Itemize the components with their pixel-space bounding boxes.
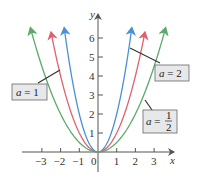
- y-tick-label: 5: [89, 51, 95, 63]
- svg-text:a = 1: a = 1: [16, 86, 39, 98]
- x-tick-label: −3: [35, 155, 47, 167]
- svg-text:a = 2: a = 2: [159, 67, 182, 79]
- x-axis-label: x: [169, 154, 175, 166]
- leader-ahalf: [145, 100, 152, 110]
- svg-text:2: 2: [166, 121, 172, 133]
- leader-a2: [130, 48, 160, 63]
- y-tick-label: 4: [89, 70, 95, 82]
- y-tick-label: 2: [89, 108, 95, 120]
- x-tick-label: −1: [72, 155, 84, 167]
- label-a-1: a = 1: [12, 84, 47, 100]
- x-tick-label: 3: [151, 155, 157, 167]
- svg-text:a =: a =: [146, 115, 160, 127]
- label-a-half: a = 1 2: [143, 109, 177, 133]
- parabola-chart: −3−2−10123123456 x y a = 1 a = 2 a = 1 2: [0, 0, 201, 182]
- leader-a1: [38, 70, 60, 83]
- y-tick-label: 6: [89, 32, 95, 44]
- label-a-2: a = 2: [155, 65, 189, 81]
- x-tick-label: 0: [91, 155, 97, 167]
- x-tick-label: 1: [114, 155, 120, 167]
- svg-text:1: 1: [166, 109, 172, 121]
- x-tick-label: −2: [54, 155, 66, 167]
- curve-a-2: [98, 29, 132, 152]
- y-tick-label: 1: [89, 127, 95, 139]
- y-tick-label: 3: [89, 89, 95, 101]
- x-tick-label: 2: [132, 155, 138, 167]
- y-axis-label: y: [89, 8, 95, 20]
